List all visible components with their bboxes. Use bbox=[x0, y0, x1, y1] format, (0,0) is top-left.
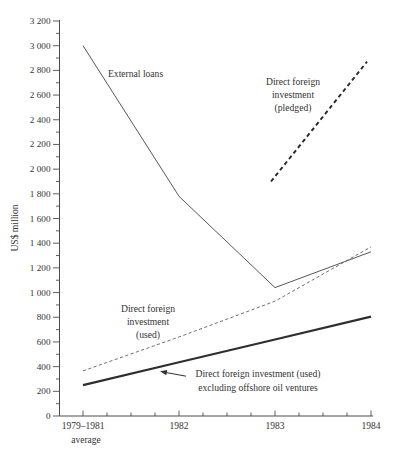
annotation-dfi-used-line2: investment bbox=[121, 315, 175, 328]
y-tick-label: 200 bbox=[37, 386, 51, 396]
x-tick-label: 1984 bbox=[362, 421, 381, 431]
y-axis-tick-labels: 02004006008001 0001 2001 4001 6001 8002 … bbox=[30, 16, 51, 421]
y-tick-label: 2 800 bbox=[30, 65, 51, 75]
annotation-excl-line2: excluding offshore oil ventures bbox=[186, 381, 330, 395]
x-tick-label: 1983 bbox=[266, 421, 285, 431]
annotation-dfi-pledged: Direct foreign investment (pledged) bbox=[266, 75, 320, 114]
x-axis-ticks bbox=[83, 411, 371, 417]
series-external-loans bbox=[83, 46, 371, 288]
annotation-arrow bbox=[160, 370, 186, 376]
y-tick-label: 3 200 bbox=[30, 16, 51, 26]
x-axis-tick-labels: 1979–1981198219831984average bbox=[62, 421, 381, 445]
y-axis-title: US$ million bbox=[9, 204, 20, 251]
y-tick-label: 800 bbox=[37, 312, 51, 322]
axes bbox=[60, 20, 374, 416]
chart-figure: 02004006008001 0001 2001 4001 6001 8002 … bbox=[0, 0, 402, 462]
annotation-dfi-pledged-line1: Direct foreign bbox=[266, 75, 320, 88]
y-tick-label: 400 bbox=[37, 362, 51, 372]
y-tick-label: 1 800 bbox=[30, 189, 51, 199]
annotation-excl-line1: Direct foreign investment (used) bbox=[186, 367, 330, 381]
y-tick-label: 2 000 bbox=[30, 164, 51, 174]
y-tick-label: 2 400 bbox=[30, 115, 51, 125]
annotation-dfi-used-line1: Direct foreign bbox=[121, 302, 175, 315]
y-tick-label: 2 200 bbox=[30, 139, 51, 149]
y-tick-label: 2 600 bbox=[30, 90, 51, 100]
annotation-dfi-used-line3: (used) bbox=[121, 328, 175, 341]
y-tick-label: 1 400 bbox=[30, 238, 51, 248]
annotation-external-loans: External loans bbox=[108, 67, 163, 80]
y-tick-label: 600 bbox=[37, 337, 51, 347]
y-tick-label: 0 bbox=[46, 411, 51, 421]
y-tick-label: 1 000 bbox=[30, 288, 51, 298]
x-tick-label: 1982 bbox=[170, 421, 189, 431]
y-axis-ticks bbox=[53, 21, 60, 416]
x-tick-label: 1979–1981 bbox=[62, 421, 105, 431]
annotation-dfi-pledged-line3: (pledged) bbox=[266, 101, 320, 114]
annotation-dfi-used-excl-oil: Direct foreign investment (used) excludi… bbox=[186, 367, 330, 394]
x-tick-sublabel-average: average bbox=[71, 435, 101, 445]
annotation-dfi-pledged-line2: investment bbox=[266, 88, 320, 101]
y-tick-label: 3 000 bbox=[30, 41, 51, 51]
annotation-dfi-used: Direct foreign investment (used) bbox=[121, 302, 175, 341]
y-tick-label: 1 200 bbox=[30, 263, 51, 273]
y-tick-label: 1 600 bbox=[30, 214, 51, 224]
